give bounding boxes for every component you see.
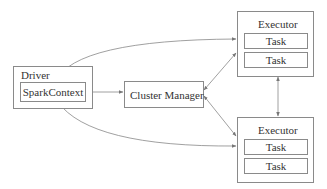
driver-label: Driver bbox=[21, 69, 50, 81]
executor-label-1: Executor bbox=[258, 18, 298, 30]
executor-label-2: Executor bbox=[258, 124, 298, 136]
task-box: Task bbox=[244, 52, 308, 68]
driver-box: Driver SparkContext bbox=[13, 66, 93, 109]
task-box: Task bbox=[244, 33, 308, 49]
task-box: Task bbox=[244, 158, 308, 174]
executor-box-1: Executor Task Task bbox=[237, 11, 314, 77]
executor-box-2: Executor Task Task bbox=[237, 117, 314, 183]
cluster-manager-label: Cluster Manager bbox=[130, 89, 204, 101]
task-box: Task bbox=[244, 139, 308, 155]
cluster-manager-box: Cluster Manager bbox=[124, 81, 204, 108]
sparkcontext-box: SparkContext bbox=[20, 82, 86, 102]
